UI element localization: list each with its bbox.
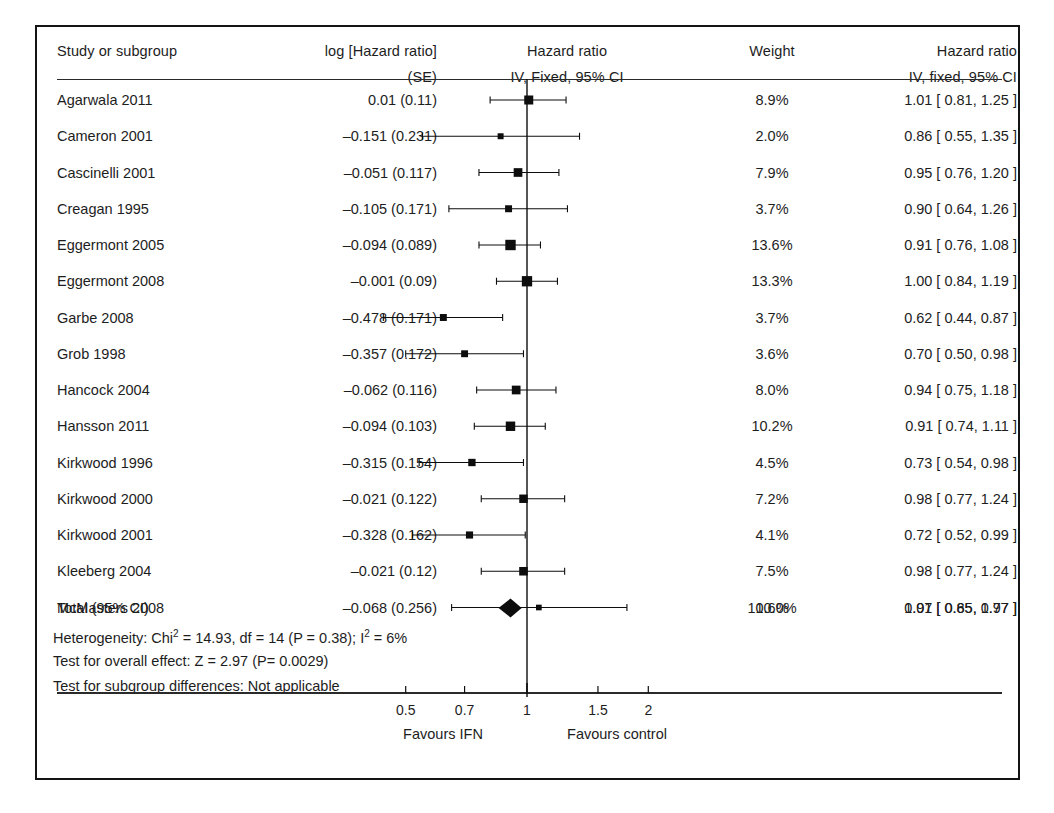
row-study-name: Kirkwood 2000: [57, 490, 257, 508]
row-study-name: Hansson 2011: [57, 417, 257, 435]
table-row: Cascinelli 2001–0.051 (0.117)7.9%0.95 [ …: [37, 164, 1018, 198]
axis-tick-label-2: 2: [644, 702, 652, 718]
row-log-hazard: –0.315 (0.154): [252, 454, 437, 472]
row-study-name: Creagan 1995: [57, 200, 257, 218]
row-hazard-ratio: 0.70 [ 0.50, 0.98 ]: [847, 345, 1017, 363]
row-log-hazard: –0.021 (0.122): [252, 490, 437, 508]
row-log-hazard: –0.094 (0.089): [252, 236, 437, 254]
row-study-name: Hancock 2004: [57, 381, 257, 399]
row-weight: 7.5%: [697, 562, 847, 580]
total-hazard-ratio: 0.91 [ 0.85, 0.97 ]: [847, 599, 1017, 617]
row-study-name: Eggermont 2008: [57, 272, 257, 290]
header-divider: [57, 79, 1002, 80]
row-weight: 10.2%: [697, 417, 847, 435]
axis-tick-label-0-7: 0.7: [455, 702, 474, 718]
table-row: Kirkwood 2000–0.021 (0.122)7.2%0.98 [ 0.…: [37, 490, 1018, 524]
row-study-name: Agarwala 2011: [57, 91, 257, 109]
row-weight: 2.0%: [697, 127, 847, 145]
row-study-name: Garbe 2008: [57, 309, 257, 327]
row-weight: 7.2%: [697, 490, 847, 508]
row-study-name: Kirkwood 1996: [57, 454, 257, 472]
row-hazard-ratio: 0.62 [ 0.44, 0.87 ]: [847, 309, 1017, 327]
row-weight: 4.1%: [697, 526, 847, 544]
row-hazard-ratio: 0.91 [ 0.76, 1.08 ]: [847, 236, 1017, 254]
axis-tick-label-1-5: 1.5: [588, 702, 607, 718]
row-weight: 13.6%: [697, 236, 847, 254]
row-hazard-ratio: 0.91 [ 0.74, 1.11 ]: [847, 417, 1017, 435]
row-study-name: Cameron 2001: [57, 127, 257, 145]
table-row: Kirkwood 2001–0.328 (0.162)4.1%0.72 [ 0.…: [37, 526, 1018, 560]
table-row: Grob 1998–0.357 (0.172)3.6%0.70 [ 0.50, …: [37, 345, 1018, 379]
table-row: Kleeberg 2004–0.021 (0.12)7.5%0.98 [ 0.7…: [37, 562, 1018, 596]
axis-label-favours-ifn: Favours IFN: [403, 726, 483, 742]
row-weight: 13.3%: [697, 272, 847, 290]
axis-label-favours-control: Favours control: [567, 726, 667, 742]
table-row: Eggermont 2005–0.094 (0.089)13.6%0.91 [ …: [37, 236, 1018, 270]
stat-line-1: Heterogeneity: Chi2 = 14.93, df = 14 (P …: [53, 628, 407, 646]
header-hr-line2: IV, fixed, 95% CI: [847, 69, 1017, 85]
row-log-hazard: –0.151 (0.231): [252, 127, 437, 145]
row-weight: 8.9%: [697, 91, 847, 109]
table-row: Eggermont 2008–0.001 (0.09)13.3%1.00 [ 0…: [37, 272, 1018, 306]
axis-tick-label-1: 1: [523, 702, 531, 718]
table-row: Hansson 2011–0.094 (0.103)10.2%0.91 [ 0.…: [37, 417, 1018, 451]
row-weight: 4.5%: [697, 454, 847, 472]
row-log-hazard: –0.105 (0.171): [252, 200, 437, 218]
row-log-hazard: –0.001 (0.09): [252, 272, 437, 290]
row-study-name: Kleeberg 2004: [57, 562, 257, 580]
header-loghr-line1: log [Hazard ratio]: [252, 43, 437, 59]
row-weight: 3.6%: [697, 345, 847, 363]
row-hazard-ratio: 0.94 [ 0.75, 1.18 ]: [847, 381, 1017, 399]
row-hazard-ratio: 0.98 [ 0.77, 1.24 ]: [847, 562, 1017, 580]
row-hazard-ratio: 0.86 [ 0.55, 1.35 ]: [847, 127, 1017, 145]
row-study-name: Eggermont 2005: [57, 236, 257, 254]
header-plot-line1: Hazard ratio: [437, 43, 697, 59]
forest-plot-figure: Study or subgroup log [Hazard ratio] (SE…: [35, 25, 1020, 780]
table-row: Creagan 1995–0.105 (0.171)3.7%0.90 [ 0.6…: [37, 200, 1018, 234]
row-hazard-ratio: 0.90 [ 0.64, 1.26 ]: [847, 200, 1017, 218]
row-hazard-ratio: 0.98 [ 0.77, 1.24 ]: [847, 490, 1017, 508]
axis-tick-label-0-5: 0.5: [396, 702, 415, 718]
table-row: Hancock 2004–0.062 (0.116)8.0%0.94 [ 0.7…: [37, 381, 1018, 415]
row-hazard-ratio: 0.72 [ 0.52, 0.99 ]: [847, 526, 1017, 544]
header-loghr-line2: (SE): [252, 69, 437, 85]
row-log-hazard: –0.357 (0.172): [252, 345, 437, 363]
row-log-hazard: 0.01 (0.11): [252, 91, 437, 109]
row-weight: 8.0%: [697, 381, 847, 399]
row-hazard-ratio: 0.73 [ 0.54, 0.98 ]: [847, 454, 1017, 472]
header-study-line1: Study or subgroup: [57, 43, 257, 59]
stat-line-2: Test for overall effect: Z = 2.97 (P= 0.…: [53, 653, 328, 669]
total-label: Total (95% CI): [57, 599, 257, 617]
table-row: Garbe 2008–0.478 (0.171)3.7%0.62 [ 0.44,…: [37, 309, 1018, 343]
header-weight-line1: Weight: [697, 43, 847, 59]
row-log-hazard: –0.328 (0.162): [252, 526, 437, 544]
row-log-hazard: –0.051 (0.117): [252, 164, 437, 182]
table-row: Kirkwood 1996–0.315 (0.154)4.5%0.73 [ 0.…: [37, 454, 1018, 488]
row-weight: 7.9%: [697, 164, 847, 182]
row-hazard-ratio: 0.95 [ 0.76, 1.20 ]: [847, 164, 1017, 182]
row-log-hazard: –0.094 (0.103): [252, 417, 437, 435]
row-study-name: Grob 1998: [57, 345, 257, 363]
axis-divider: [57, 692, 1002, 694]
row-hazard-ratio: 1.00 [ 0.84, 1.19 ]: [847, 272, 1017, 290]
table-row: Cameron 2001–0.151 (0.231)2.0%0.86 [ 0.5…: [37, 127, 1018, 161]
header-plot-line2: IV, Fixed, 95% CI: [437, 69, 697, 85]
header-hr-line1: Hazard ratio: [847, 43, 1017, 59]
total-weight: 100.0%: [697, 599, 847, 617]
row-weight: 3.7%: [697, 309, 847, 327]
row-hazard-ratio: 1.01 [ 0.81, 1.25 ]: [847, 91, 1017, 109]
row-study-name: Kirkwood 2001: [57, 526, 257, 544]
row-study-name: Cascinelli 2001: [57, 164, 257, 182]
row-log-hazard: –0.021 (0.12): [252, 562, 437, 580]
table-row: Agarwala 20110.01 (0.11)8.9%1.01 [ 0.81,…: [37, 91, 1018, 125]
row-log-hazard: –0.062 (0.116): [252, 381, 437, 399]
row-log-hazard: –0.478 (0.171): [252, 309, 437, 327]
row-weight: 3.7%: [697, 200, 847, 218]
